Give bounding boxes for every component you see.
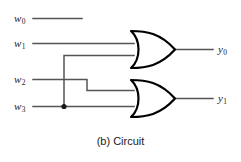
wire-w2-to-or-bottom	[33, 80, 134, 91]
circuit-figure: w0 w1 w2 w3 y0 y1 (b) Circuit	[0, 0, 241, 162]
figure-caption: (b) Circuit	[0, 136, 241, 147]
input-label-w2: w2	[14, 74, 25, 87]
output-label-y1: y1	[218, 93, 227, 106]
input-label-w0: w0	[14, 13, 25, 26]
junction-dot-w3	[61, 104, 66, 109]
or-gate-bottom	[131, 80, 175, 117]
input-label-w3-subscript: 3	[21, 105, 25, 114]
output-label-y0: y0	[218, 44, 227, 57]
input-label-w3: w3	[14, 101, 25, 114]
input-label-w2-subscript: 2	[21, 78, 25, 87]
output-label-y1-subscript: 1	[223, 97, 227, 106]
input-label-w0-subscript: 0	[21, 17, 25, 26]
or-gate-top	[131, 31, 175, 68]
input-label-w1-subscript: 1	[21, 42, 25, 51]
input-label-w1: w1	[14, 38, 25, 51]
wire-w3-branch-to-or-top	[64, 56, 134, 107]
output-label-y0-subscript: 0	[223, 48, 227, 57]
